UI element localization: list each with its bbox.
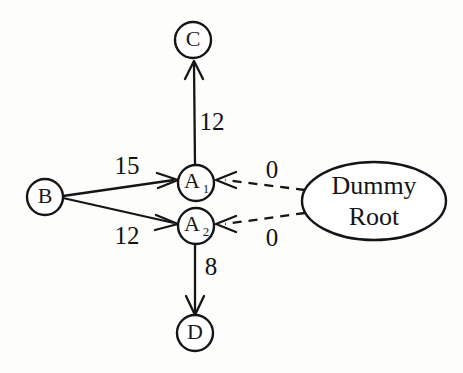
- edge-line: [225, 213, 305, 224]
- node-b[interactable]: B: [27, 179, 63, 215]
- edge-weight-a1-c: 12: [200, 108, 225, 135]
- node-label-a2: A: [184, 211, 200, 236]
- node-d[interactable]: D: [177, 315, 213, 351]
- node-label-d: D: [187, 319, 203, 344]
- graph-canvas: C A 1 A 2 B D Dummy Root 12 15 12 8: [0, 0, 463, 373]
- node-label-dummy-root-line2: Root: [349, 202, 400, 231]
- edge-weight-root-a1: 0: [266, 156, 279, 183]
- edge-weight-root-a2: 0: [266, 224, 279, 251]
- edge-line: [194, 64, 195, 165]
- edge-weight-b-a2: 12: [115, 222, 140, 249]
- edge-line: [63, 198, 174, 223]
- edge-a2-to-d: [186, 244, 204, 315]
- edge-root-to-a2: [216, 213, 305, 232]
- arrow-head-icon: [155, 215, 178, 230]
- edge-weight-b-a1: 15: [115, 152, 140, 179]
- node-label-b: B: [38, 183, 53, 208]
- node-dummy-root[interactable]: Dummy Root: [302, 162, 446, 240]
- edge-weight-a2-d: 8: [205, 253, 218, 280]
- node-label-dummy-root-line1: Dummy: [331, 171, 416, 200]
- node-label-a1-subscript: 1: [203, 181, 210, 196]
- node-a1[interactable]: A 1: [178, 165, 214, 201]
- node-label-a2-subscript: 2: [203, 224, 210, 239]
- node-a2[interactable]: A 2: [178, 208, 214, 244]
- node-label-c: C: [186, 26, 201, 51]
- node-c[interactable]: C: [175, 22, 211, 58]
- edge-root-to-a1: [216, 172, 305, 190]
- node-label-a1: A: [184, 168, 200, 193]
- graph-diagram: C A 1 A 2 B D Dummy Root 12 15 12 8: [0, 0, 463, 373]
